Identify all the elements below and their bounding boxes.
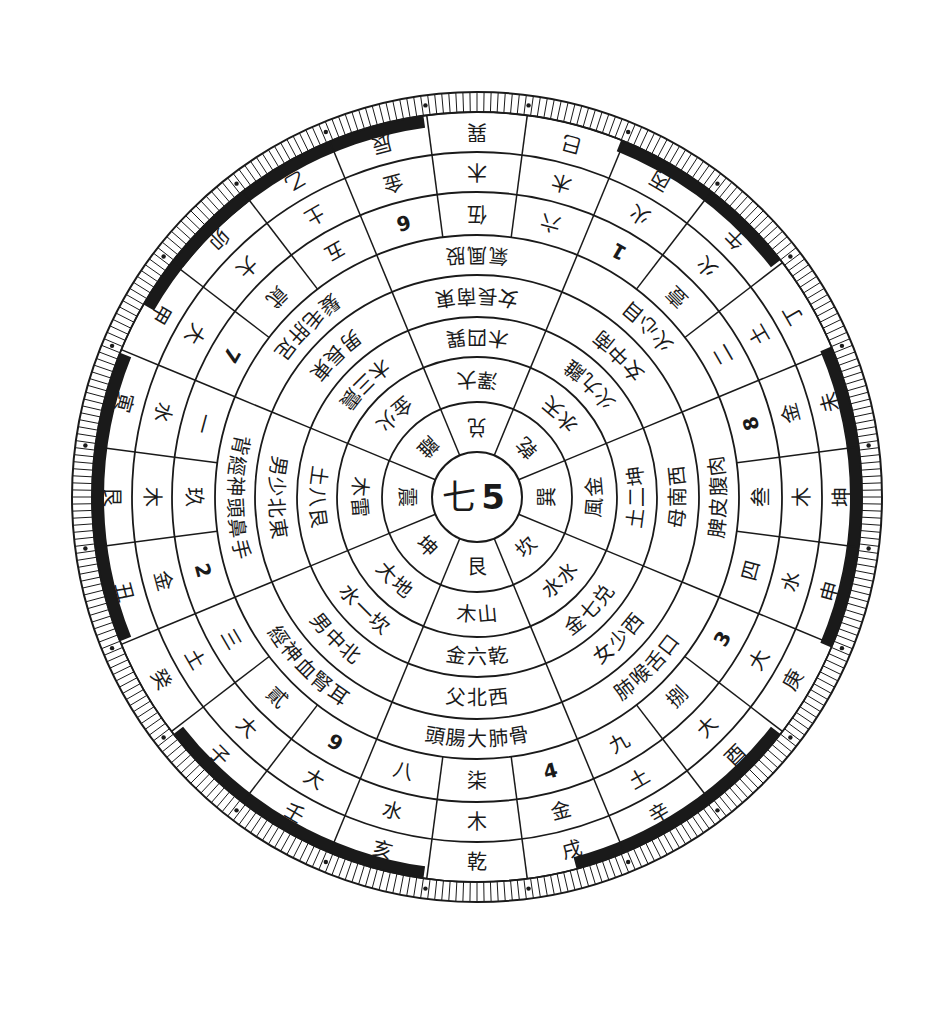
ring5-label: 神	[223, 476, 248, 497]
ring3-label: 四	[467, 325, 487, 349]
ring6_numbers-label: 玖	[182, 487, 206, 507]
ring6_numbers-label: 3	[709, 627, 737, 651]
ring4-label: 南	[456, 284, 477, 309]
ring_trigrams-label: 坎	[511, 531, 542, 562]
ring8_mountains-label: 癸	[146, 665, 177, 694]
ring4-label: 少	[264, 476, 289, 497]
ring8_mountains-label: 巽	[467, 120, 487, 144]
ring8_mountains-label: 申	[815, 579, 843, 605]
ring_trigrams-label: 離	[412, 432, 443, 463]
ring7_elements-label: 土	[180, 645, 211, 674]
ring8_mountains-label: 艮	[100, 487, 124, 507]
ring5-label: 骨	[507, 722, 531, 749]
ring4-label: 女	[497, 285, 521, 312]
ring7_elements-label: 火	[691, 252, 722, 283]
ring4-label: 長	[477, 284, 498, 309]
ring4-label: 母	[664, 507, 690, 529]
ring7_elements-label: 金	[777, 400, 805, 426]
center-hub: 七 5	[442, 477, 505, 517]
ring7_elements-label: 土	[300, 200, 329, 231]
ring6_numbers-label: 一	[189, 411, 217, 437]
ring3-label: 巽	[445, 325, 468, 351]
ring7_elements-label: 水	[777, 568, 805, 594]
ring2-label: 雷	[347, 496, 373, 518]
ring8_mountains-label: 亥	[370, 835, 396, 863]
ring_trigrams-label: 艮	[467, 555, 487, 579]
hub-number-five: 5	[481, 477, 505, 517]
ring5-label: 氣	[487, 243, 509, 269]
ring6_numbers-label: 叁	[749, 487, 773, 507]
ring6_numbers-label: 二	[707, 341, 738, 370]
ring5-label: 腹	[706, 476, 731, 497]
ring-labels: 兑乾巽坎艮坤震離大澤天水金風水水山木地大雷木火金巽四木離九火坤二土兑七金乾六金坎…	[100, 120, 854, 874]
ring7_elements-label: 大	[232, 711, 263, 742]
ring_trigrams-label: 巽	[535, 487, 559, 507]
ring5-label: 大	[467, 727, 487, 751]
ring2-label: 澤	[476, 367, 498, 393]
ring7_elements-label: 水	[149, 400, 177, 426]
ring_trigrams-label: 兑	[467, 415, 487, 439]
outer-solid-bands	[92, 116, 862, 879]
ring8_mountains-label: 丑	[110, 579, 138, 605]
ring5-label: 肉	[704, 454, 730, 477]
ring4-label: 北	[467, 686, 487, 710]
ring8_mountains-label: 巳	[559, 130, 585, 158]
ring5-label: 皮	[706, 497, 731, 518]
ring6_numbers-label: 五	[321, 236, 350, 267]
ring7_elements-label: 木	[790, 487, 814, 507]
ring7_elements-label: 土	[743, 320, 774, 349]
ring3-label: 坤	[622, 465, 648, 488]
ring4-label: 西	[664, 465, 690, 487]
ring2-label: 山	[476, 601, 498, 627]
ring6_numbers-label: 7	[218, 343, 246, 367]
ring6_numbers-label: 三	[216, 624, 247, 653]
ring7_elements-label: 大	[691, 711, 722, 742]
hub-char-seven: 七	[442, 477, 476, 517]
ring8_mountains-label: 乾	[467, 850, 487, 874]
ring7_elements-label: 木	[548, 169, 574, 197]
ring6_numbers-label: 九	[604, 727, 633, 758]
ring7_elements-label: 金	[380, 169, 406, 197]
ring_trigrams-label: 坤	[412, 531, 443, 562]
ring7_elements-label: 木	[467, 810, 487, 834]
ring4-label: 東	[265, 517, 292, 541]
ring7_elements-label: 木	[467, 160, 487, 184]
ring6_numbers-label: 八	[391, 757, 417, 785]
ring8_mountains-label: 戌	[559, 835, 585, 863]
luopan-compass-diagram: 兑乾巽坎艮坤震離大澤天水金風水水山木地大雷木火金巽四木離九火坤二土兑七金乾六金坎…	[0, 0, 925, 1020]
ring5-label: 鼻	[224, 517, 250, 540]
ring7_elements-label: 金	[548, 797, 574, 825]
ring7_elements-label: 金	[149, 568, 177, 594]
ring7_elements-label: 大	[300, 763, 329, 794]
ring4-label: 男	[265, 454, 292, 478]
ring6_numbers-label: 1	[607, 238, 631, 266]
ring5-label: 肺	[487, 725, 509, 751]
ring6_numbers-label: 伍	[467, 202, 487, 226]
ring2-label: 金	[581, 475, 607, 497]
ring6_numbers-label: 2	[190, 561, 217, 581]
ring5-label: 手	[227, 537, 255, 562]
ring6_numbers-label: 捌	[662, 682, 693, 713]
ring_trigrams-label: 乾	[511, 432, 542, 463]
ring3-label: 二	[625, 487, 649, 507]
ring5-label: 背	[227, 433, 255, 458]
ring2-label: 木	[347, 475, 373, 497]
ring4-label: 北	[264, 497, 289, 518]
ring5-label: 腸	[445, 725, 467, 751]
ring6_numbers-label: 8	[737, 414, 764, 434]
ring6_numbers-label: 壹	[662, 281, 693, 312]
ring3-label: 六	[467, 645, 487, 669]
ring2-label: 大	[455, 367, 477, 393]
ring3-label: 土	[622, 506, 648, 529]
ring5-label: 脾	[704, 517, 730, 540]
ring3-label: 金	[445, 642, 468, 668]
ring4-label: 父	[445, 684, 467, 710]
ring6_numbers-label: 4	[541, 757, 561, 784]
ring6_numbers-label: 6	[394, 210, 414, 237]
ring4-label: 南	[666, 487, 690, 507]
ring7_elements-label: 土	[625, 763, 654, 794]
ring3-label: 八	[305, 487, 329, 507]
ring8_mountains-label: 坤	[830, 487, 854, 507]
ring3-label: 木	[486, 325, 509, 351]
ring7_elements-label: 大	[743, 645, 774, 674]
